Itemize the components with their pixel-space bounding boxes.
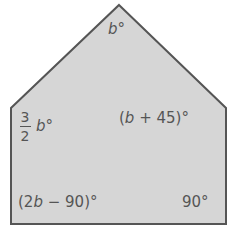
fraction-numerator: 3 [20, 110, 30, 124]
angle-lower-left-degree: ° [90, 193, 98, 211]
angle-upper-left-term: b° [36, 119, 53, 134]
angle-label-top: b° [108, 22, 125, 37]
angle-upper-left-degree: ° [46, 117, 54, 135]
angle-top-variable: b [108, 20, 118, 38]
fraction-denominator: 2 [20, 129, 30, 143]
angle-upper-right-variable: b [125, 109, 135, 127]
angle-upper-right-rest: + 45) [134, 109, 181, 127]
angle-upper-left-variable: b [36, 117, 46, 135]
angle-upper-right-degree: ° [181, 109, 189, 127]
angle-label-lower-left: (2b − 90)° [18, 195, 97, 210]
angle-lower-left-open: (2 [18, 193, 33, 211]
angle-label-lower-right: 90° [182, 195, 209, 210]
angle-top-degree: ° [118, 20, 126, 38]
angle-lower-left-rest: − 90) [43, 193, 90, 211]
angle-label-upper-right: (b + 45)° [119, 111, 189, 126]
fraction-bar [20, 126, 31, 127]
angle-lower-left-variable: b [33, 193, 43, 211]
